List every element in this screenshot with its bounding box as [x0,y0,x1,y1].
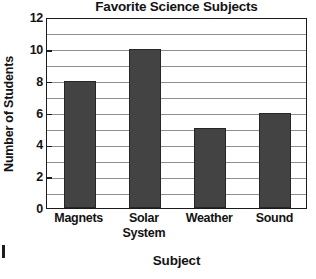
bar [259,113,291,209]
x-axis-tick-label: Sound [242,211,307,226]
y-axis-title-container: Number of Students [0,18,18,209]
x-axis-tick-label: SolarSystem [111,211,176,241]
plot-area [46,18,307,209]
y-axis-tick-label: 4 [21,139,43,151]
x-axis-tick-label: Weather [177,211,242,226]
x-axis-tick-labels: MagnetsSolarSystemWeatherSound [46,211,307,251]
y-axis-title: Number of Students [2,56,16,172]
x-axis-tick-label-line: Solar [111,211,176,226]
chart-title: Favorite Science Subjects [46,0,307,15]
y-axis-tick-label: 8 [21,76,43,88]
y-axis-tick-labels: 121086420 [18,0,43,279]
y-axis-tick-label: 0 [21,203,43,215]
bar-chart-figure: Favorite Science Subjects Number of Stud… [0,0,316,279]
x-axis-tick-label: Magnets [46,211,111,226]
bar [194,128,226,208]
bar [64,81,96,208]
y-axis-tick-label: 2 [21,171,43,183]
y-axis-tick-label: 10 [21,44,43,56]
x-axis-title: Subject [46,253,307,268]
x-axis-tick-label-line: Magnets [46,211,111,226]
bar-series [47,19,306,208]
bar [129,49,161,208]
scan-artifact-mark [2,245,5,258]
x-axis-tick-label-line: System [111,226,176,241]
x-axis-tick-label-line: Weather [177,211,242,226]
x-axis-tick-label-line: Sound [242,211,307,226]
y-axis-tick-label: 12 [21,12,43,24]
y-axis-tick-label: 6 [21,108,43,120]
